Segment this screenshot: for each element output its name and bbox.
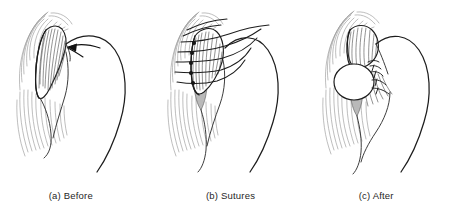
humeral-head-curve xyxy=(376,36,429,172)
muscle-striations-lower xyxy=(168,90,218,156)
insertion-seam xyxy=(376,44,388,74)
repaired-bulge xyxy=(334,64,374,100)
direction-arrow xyxy=(68,44,101,57)
muscle-belly-outline-right xyxy=(361,92,390,162)
caption-panel-c: (c) After xyxy=(305,182,453,209)
muscle-striations-lower xyxy=(17,90,67,156)
panel-row xyxy=(0,0,453,182)
caption-panel-b: (b) Sutures xyxy=(160,182,306,209)
figure-container: (a) Before (b) Sutures (c) After xyxy=(0,0,453,209)
panel-b-illustration xyxy=(151,0,302,182)
humeral-head-curve xyxy=(66,36,125,172)
humeral-head-curve xyxy=(225,38,278,172)
panel-a-before xyxy=(0,0,151,182)
panel-c-illustration xyxy=(302,0,453,182)
caption-panel-a: (a) Before xyxy=(0,182,160,209)
panel-a-illustration xyxy=(0,0,151,182)
caption-row: (a) Before (b) Sutures (c) After xyxy=(0,182,453,209)
muscle-belly-outline xyxy=(40,98,51,158)
panel-c-after xyxy=(302,0,453,182)
muscle-belly-outline xyxy=(353,116,361,174)
panel-b-sutures xyxy=(151,0,302,182)
